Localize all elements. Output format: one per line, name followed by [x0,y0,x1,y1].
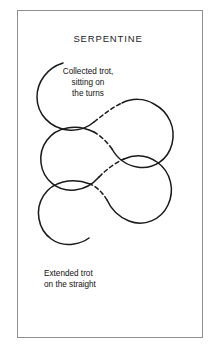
page-title: SERPENTINE [0,33,216,44]
annotation-collected-trot: Collected trot, sitting on the turns [46,66,130,99]
annotation-extended-trot: Extended trot on the straight [44,268,144,290]
figure-page: SERPENTINE Collected trot, sitting on th… [0,0,216,351]
